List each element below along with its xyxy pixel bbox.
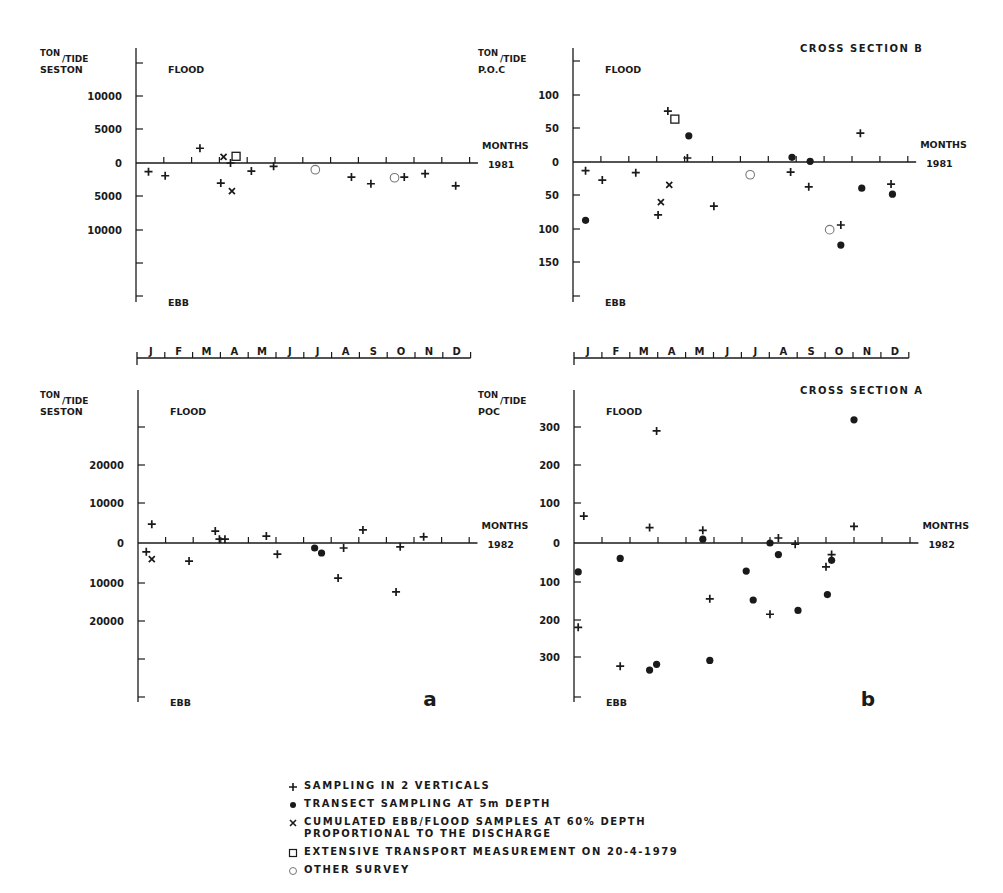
data-point-dot	[617, 555, 624, 562]
month-label: N	[863, 346, 871, 357]
data-point-plus	[574, 623, 582, 631]
y-tick-label: 300	[539, 652, 560, 663]
y-unit-label: /TIDE	[62, 396, 88, 406]
data-point-dot	[318, 549, 325, 556]
chart-panel-seston-1981: 1000050000500010000TON/TIDESESTONFLOODEB…	[40, 48, 529, 308]
data-point-dot	[794, 607, 801, 614]
month-label: M	[695, 346, 705, 357]
month-label: A	[668, 346, 676, 357]
data-point-plus	[142, 548, 150, 556]
year-label: 1981	[488, 159, 514, 170]
data-point-plus	[396, 543, 404, 551]
y-tick-label: 20000	[89, 460, 124, 471]
data-point-plus	[822, 563, 830, 571]
chart-panel-seston-1982: 200001000001000020000TON/TIDESESTONFLOOD…	[40, 390, 528, 711]
data-point-plus	[340, 544, 348, 552]
data-point-plus	[616, 662, 624, 670]
y-unit-label: TON	[40, 390, 60, 400]
data-point-dot	[743, 568, 750, 575]
year-label: 1982	[487, 539, 513, 550]
data-point-dot	[582, 217, 589, 224]
year-label: 1982	[928, 539, 954, 550]
y-tick-label: 150	[538, 257, 559, 268]
y-quantity-label: SESTON	[40, 64, 83, 75]
x-marker-icon	[282, 816, 304, 829]
y-tick-label: 5000	[94, 191, 122, 202]
data-point-plus	[421, 170, 429, 178]
data-point-x	[149, 556, 155, 562]
data-point-plus	[598, 176, 606, 184]
data-point-plus	[653, 427, 661, 435]
data-point-plus	[148, 520, 156, 528]
data-point-plus	[646, 524, 654, 532]
data-point-dot	[750, 596, 757, 603]
y-unit-label: TON	[478, 390, 498, 400]
data-point-plus	[400, 173, 408, 181]
data-point-circle	[746, 170, 755, 179]
y-tick-label: 0	[553, 538, 560, 549]
data-point-plus	[787, 168, 795, 176]
y-tick-label: 50	[545, 190, 559, 201]
data-point-plus	[766, 610, 774, 618]
data-point-plus	[392, 588, 400, 596]
data-point-dot	[653, 661, 660, 668]
data-point-plus	[196, 144, 204, 152]
panel-letter: a	[423, 687, 437, 711]
data-point-plus	[273, 550, 281, 558]
y-unit-label: /TIDE	[62, 54, 88, 64]
data-point-dot	[685, 132, 692, 139]
data-point-plus	[632, 169, 640, 177]
y-quantity-label: P.O.C	[478, 64, 505, 75]
y-tick-label: 10000	[87, 225, 122, 236]
y-tick-label: 200	[539, 615, 560, 626]
data-point-plus	[837, 221, 845, 229]
y-unit-label: /TIDE	[500, 54, 526, 64]
data-point-dot	[889, 191, 896, 198]
y-tick-label: 10000	[89, 498, 124, 509]
y-tick-label: 5000	[94, 124, 122, 135]
legend-label: TRANSECT SAMPLING AT 5m DEPTH	[304, 798, 551, 810]
data-point-dot	[824, 591, 831, 598]
data-point-plus	[887, 180, 895, 188]
open-square-marker-icon	[282, 846, 304, 859]
data-point-square	[232, 152, 240, 160]
data-point-dot	[788, 154, 795, 161]
panel-title: CROSS SECTION B	[800, 43, 923, 54]
legend-item-square: EXTENSIVE TRANSPORT MEASUREMENT ON 20-4-…	[282, 846, 678, 864]
month-label: F	[612, 346, 619, 357]
data-point-circle	[390, 173, 399, 182]
data-point-circle	[825, 225, 834, 234]
y-tick-label: 0	[115, 158, 122, 169]
data-point-circle	[311, 165, 320, 174]
ebb-label: EBB	[606, 697, 627, 708]
data-point-plus	[185, 557, 193, 565]
data-point-plus	[262, 532, 270, 540]
data-point-plus	[580, 512, 588, 520]
legend-item-plus: SAMPLING IN 2 VERTICALS	[282, 780, 678, 798]
month-label: M	[639, 346, 649, 357]
data-point-dot	[807, 158, 814, 165]
data-point-x	[221, 154, 227, 160]
month-scale-left: JFMAMJJASOND	[137, 346, 471, 365]
data-point-plus	[452, 182, 460, 190]
filled-dot-marker-icon	[282, 798, 304, 811]
month-label: A	[342, 346, 350, 357]
legend-item-x: CUMULATED EBB/FLOOD SAMPLES AT 60% DEPTH…	[282, 816, 678, 846]
data-point-plus	[850, 522, 858, 530]
flood-label: FLOOD	[606, 406, 642, 417]
data-point-dot	[828, 557, 835, 564]
data-point-dot	[575, 568, 582, 575]
data-point-dot	[699, 536, 706, 543]
y-tick-label: 100	[538, 90, 559, 101]
data-point-plus	[706, 595, 714, 603]
month-label: M	[257, 346, 267, 357]
data-point-plus	[211, 527, 219, 535]
data-point-dot	[706, 657, 713, 664]
y-unit-label: /TIDE	[500, 396, 526, 406]
ebb-label: EBB	[170, 697, 191, 708]
data-point-dot	[311, 544, 318, 551]
data-point-plus	[161, 172, 169, 180]
month-label: F	[175, 346, 182, 357]
open-circle-marker-icon	[282, 864, 304, 877]
data-point-plus	[420, 533, 428, 541]
